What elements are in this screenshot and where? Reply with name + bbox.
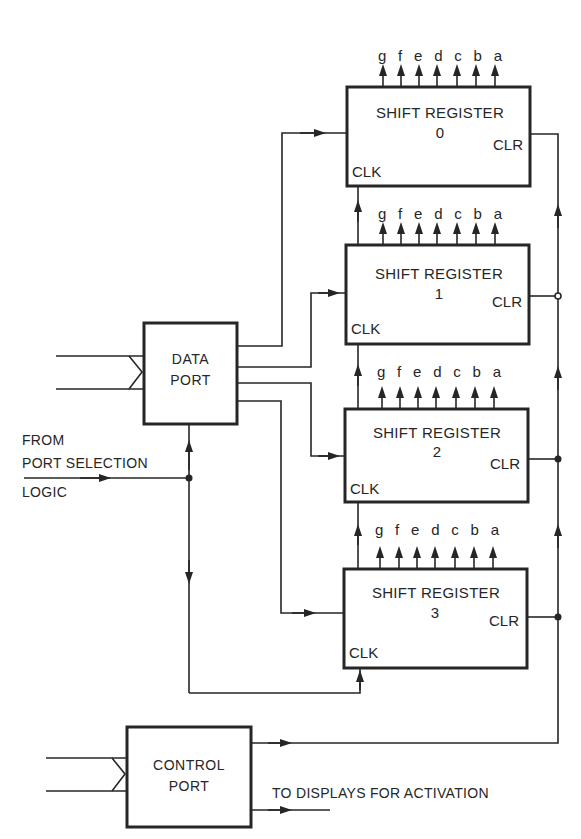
- sr2-output-arrows: [382, 392, 494, 409]
- sr1-title: SHIFT REGISTER: [359, 265, 519, 282]
- output-a: a: [494, 47, 502, 64]
- output-g: g: [377, 363, 385, 380]
- data-line-to-sr1: [237, 293, 346, 367]
- sr3-clr-label: CLR: [489, 612, 519, 629]
- output-d: d: [434, 47, 442, 64]
- sr2-number: 2: [427, 443, 447, 460]
- output-c: c: [454, 205, 462, 222]
- junction-dot: [186, 475, 193, 482]
- output-e: e: [414, 205, 422, 222]
- from-label-line1: FROM: [22, 432, 64, 448]
- sr1-number: 1: [429, 285, 449, 302]
- sr0-output-labels: g f e d c b a: [378, 47, 502, 64]
- shift-register-block-diagram: [0, 0, 581, 839]
- control-port-label: CONTROL PORT: [127, 755, 251, 797]
- junction-open-circle: [555, 293, 561, 299]
- control-port-line1: CONTROL: [127, 755, 251, 776]
- output-f: f: [398, 47, 402, 64]
- output-g: g: [378, 47, 386, 64]
- output-f: f: [398, 205, 402, 222]
- output-c: c: [454, 47, 462, 64]
- output-e: e: [411, 521, 419, 538]
- output-c: c: [453, 363, 461, 380]
- clock-line-to-sr3: [189, 668, 360, 693]
- output-a: a: [491, 521, 499, 538]
- data-line-to-sr3: [237, 401, 344, 613]
- output-b: b: [474, 47, 482, 64]
- sr2-clk-label: CLK: [350, 480, 379, 497]
- sr0-clk-label: CLK: [352, 163, 381, 180]
- to-displays-label: TO DISPLAYS FOR ACTIVATION: [272, 785, 489, 801]
- output-c: c: [451, 521, 459, 538]
- sr1-clk-label: CLK: [351, 320, 380, 337]
- output-f: f: [395, 521, 399, 538]
- sr1-output-labels: g f e d c b a: [378, 205, 502, 222]
- sr0-number: 0: [430, 124, 450, 141]
- output-d: d: [433, 363, 441, 380]
- output-d: d: [434, 205, 442, 222]
- sr0-clr-label: CLR: [493, 136, 523, 153]
- from-label-line3: LOGIC: [22, 484, 67, 500]
- sr2-clr-label: CLR: [490, 455, 520, 472]
- sr2-output-labels: g f e d c b a: [377, 363, 501, 380]
- sr3-output-labels: g f e d c b a: [375, 521, 499, 538]
- control-port-input-bus: [46, 758, 127, 791]
- data-port-line2: PORT: [144, 370, 237, 391]
- output-b: b: [473, 363, 481, 380]
- junction-dot: [555, 456, 562, 463]
- sr3-output-arrows: [380, 552, 493, 569]
- from-label-line2: PORT SELECTION: [22, 455, 148, 471]
- sr3-number: 3: [425, 604, 445, 621]
- sr2-title: SHIFT REGISTER: [357, 424, 517, 441]
- output-d: d: [431, 521, 439, 538]
- output-a: a: [493, 363, 501, 380]
- sr1-clr-label: CLR: [492, 293, 522, 310]
- sr0-title: SHIFT REGISTER: [360, 104, 520, 121]
- output-f: f: [397, 363, 401, 380]
- sr3-title: SHIFT REGISTER: [356, 584, 516, 601]
- sr3-clk-label: CLK: [349, 644, 378, 661]
- sr1-output-arrows: [383, 228, 495, 245]
- output-a: a: [494, 205, 502, 222]
- sr0-output-arrows: [383, 70, 495, 87]
- output-g: g: [378, 205, 386, 222]
- data-port-line1: DATA: [144, 349, 237, 370]
- data-port-input-bus: [56, 356, 144, 389]
- data-line-to-sr0: [237, 133, 347, 346]
- data-line-to-sr2: [237, 383, 345, 456]
- output-b: b: [474, 205, 482, 222]
- output-b: b: [471, 521, 479, 538]
- data-port-label: DATA PORT: [144, 349, 237, 391]
- output-e: e: [414, 47, 422, 64]
- junction-dot: [555, 614, 562, 621]
- control-port-line2: PORT: [127, 776, 251, 797]
- output-e: e: [413, 363, 421, 380]
- output-g: g: [375, 521, 383, 538]
